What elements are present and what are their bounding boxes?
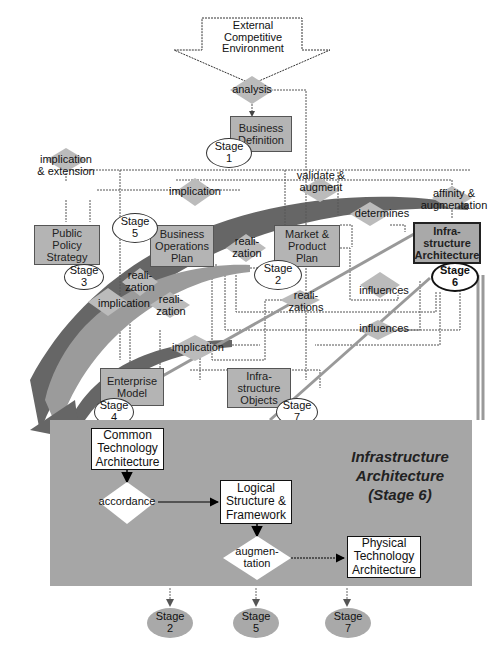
output-stage-5: Stage 5 — [233, 608, 279, 638]
output-stage-2: Stage 2 — [147, 608, 193, 638]
output-stage-7: Stage 7 — [325, 608, 371, 638]
relation-accordance: accordance — [95, 496, 159, 508]
relation-augmentation: augmen- tation — [226, 546, 288, 569]
node-common-technology-architecture[interactable]: Common Technology Architecture — [91, 428, 164, 470]
node-logical-structure-framework[interactable]: Logical Structure & Framework — [220, 480, 292, 524]
node-physical-technology-architecture[interactable]: Physical Technology Architecture — [347, 536, 421, 578]
